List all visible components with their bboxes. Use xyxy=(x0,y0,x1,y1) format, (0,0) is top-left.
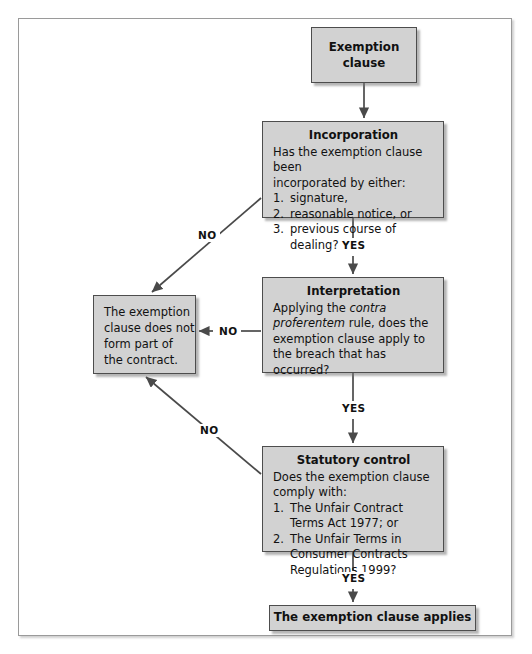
node-incorporation-intro-line2: incorporated by either: xyxy=(273,176,434,192)
node-interpretation-body: Applying the contra proferentem rule, do… xyxy=(273,301,434,379)
list-item-text: reasonable notice, or xyxy=(290,207,412,221)
list-item: 2. reasonable notice, or xyxy=(273,207,434,223)
node-interpretation-title: Interpretation xyxy=(273,284,434,300)
edge-label-no-incorporation: NO xyxy=(195,229,220,242)
node-statutory-list: 1. The Unfair Contract Terms Act 1977; o… xyxy=(273,501,434,579)
list-item-number: 1. xyxy=(273,501,284,517)
edge-label-yes-incorporation: YES xyxy=(339,239,369,252)
list-item-text: The Unfair Terms in Consumer Contracts R… xyxy=(290,532,408,577)
node-exemption-clause[interactable]: Exemption clause xyxy=(311,27,417,83)
node-notpart-line4: the contract. xyxy=(104,353,178,367)
list-item-number: 2. xyxy=(273,207,284,223)
node-clause-not-part[interactable]: The exemption clause does not form part … xyxy=(93,295,196,374)
node-statutory-control[interactable]: Statutory control Does the exemption cla… xyxy=(262,446,444,552)
edge-label-yes-interpretation: YES xyxy=(339,402,369,415)
node-notpart-line2: clause does not xyxy=(104,321,194,335)
edge-label-no-statutory: NO xyxy=(197,424,222,437)
node-exemption-line2: clause xyxy=(343,56,385,70)
node-statutory-intro-line2: comply with: xyxy=(273,485,434,501)
node-notpart-line3: form part of xyxy=(104,337,173,351)
node-applies-label: The exemption clause applies xyxy=(274,610,472,626)
list-item-number: 3. xyxy=(273,222,284,238)
node-interpretation[interactable]: Interpretation Applying the contra profe… xyxy=(262,277,444,373)
node-incorporation-intro-line1: Has the exemption clause been xyxy=(273,145,434,176)
list-item-text: The Unfair Contract Terms Act 1977; or xyxy=(290,501,403,531)
list-item-number: 2. xyxy=(273,532,284,548)
node-notpart-line1: The exemption xyxy=(104,305,190,319)
flowchart-canvas: Exemption clause Incorporation Has the e… xyxy=(0,0,532,654)
node-statutory-title: Statutory control xyxy=(273,453,434,469)
node-statutory-intro-line1: Does the exemption clause xyxy=(273,470,434,486)
list-item-number: 1. xyxy=(273,191,284,207)
list-item-text: signature, xyxy=(290,191,348,205)
node-incorporation[interactable]: Incorporation Has the exemption clause b… xyxy=(262,121,444,218)
list-item: 1. signature, xyxy=(273,191,434,207)
edge-label-yes-statutory: YES xyxy=(339,572,369,585)
node-incorporation-title: Incorporation xyxy=(273,128,434,144)
node-clause-applies[interactable]: The exemption clause applies xyxy=(269,605,476,631)
node-interpretation-text-part1: Applying the xyxy=(273,301,349,315)
edge-label-no-interpretation: NO xyxy=(216,325,241,338)
list-item: 1. The Unfair Contract Terms Act 1977; o… xyxy=(273,501,434,532)
node-exemption-line1: Exemption xyxy=(329,40,400,54)
